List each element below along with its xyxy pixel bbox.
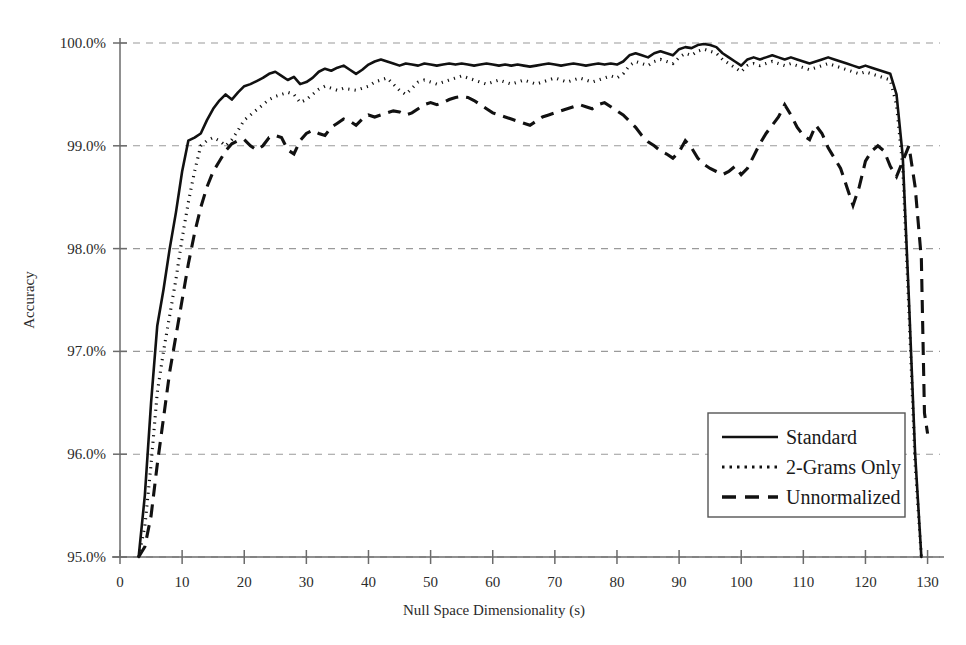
- x-tick-label-10: 10: [175, 574, 190, 590]
- y-tick-label-98: 98.0%: [67, 241, 106, 257]
- chart-figure: 95.0%96.0%97.0%98.0%99.0%100.0% 01020304…: [0, 0, 966, 645]
- y-tick-label-96: 96.0%: [67, 446, 106, 462]
- x-tick-label-20: 20: [237, 574, 252, 590]
- y-tick-label-95: 95.0%: [67, 549, 106, 565]
- legend-label-unnormalized: Unnormalized: [786, 486, 900, 508]
- accuracy-vs-null-space-dimensionality-chart: 95.0%96.0%97.0%98.0%99.0%100.0% 01020304…: [0, 0, 966, 645]
- x-tick-label-30: 30: [299, 574, 314, 590]
- x-tick-label-100: 100: [730, 574, 753, 590]
- y-tick-label-99: 99.0%: [67, 138, 106, 154]
- x-tick-label-130: 130: [916, 574, 939, 590]
- chart-legend: Standard2-Grams OnlyUnnormalized: [708, 413, 905, 517]
- x-tick-label-80: 80: [609, 574, 624, 590]
- legend-label-2-grams-only: 2-Grams Only: [786, 456, 901, 479]
- x-tick-label-60: 60: [485, 574, 500, 590]
- y-tick-label-100: 100.0%: [60, 35, 106, 51]
- x-axis-tick-labels: 0102030405060708090100110120130: [116, 574, 939, 590]
- legend-label-standard: Standard: [786, 426, 857, 448]
- x-tick-label-70: 70: [547, 574, 562, 590]
- x-axis-title: Null Space Dimensionality (s): [403, 602, 585, 619]
- x-tick-label-50: 50: [423, 574, 438, 590]
- x-tick-label-40: 40: [361, 574, 376, 590]
- x-tick-label-0: 0: [116, 574, 124, 590]
- y-tick-label-97: 97.0%: [67, 343, 106, 359]
- x-tick-label-120: 120: [854, 574, 877, 590]
- y-axis-title: Accuracy: [21, 271, 37, 329]
- x-tick-label-110: 110: [792, 574, 814, 590]
- x-tick-label-90: 90: [672, 574, 687, 590]
- y-axis-tick-labels: 95.0%96.0%97.0%98.0%99.0%100.0%: [60, 35, 106, 565]
